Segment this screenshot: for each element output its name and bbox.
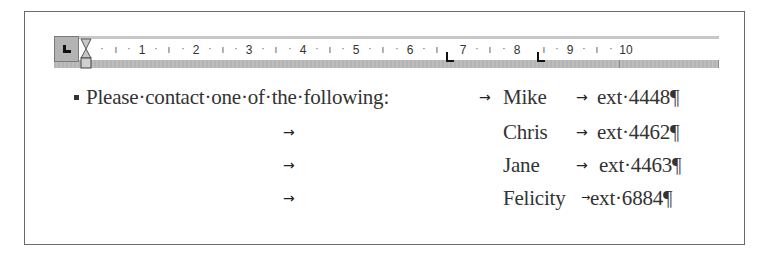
indent-marker-handle[interactable] xyxy=(80,36,92,70)
hanging-indent-icon xyxy=(81,49,91,58)
tab-arrow-icon: → xyxy=(283,120,295,144)
bullet-icon xyxy=(74,95,79,100)
contact-extension[interactable]: ext·4463¶ xyxy=(599,153,681,177)
ruler-label-10: 10 xyxy=(619,43,632,57)
contact-extension[interactable]: ext·4448¶ xyxy=(597,85,679,109)
ruler-label-2: 2 xyxy=(193,43,200,57)
ruler-label-3: 3 xyxy=(246,43,253,57)
ruler-label-6: 6 xyxy=(407,43,414,57)
tab-arrow-icon: → xyxy=(576,153,588,177)
tab-arrow-icon: → xyxy=(479,85,491,109)
ruler-labels: · ı · 1 · ı · 2 · ı · 3 · ı · 4 · ı · 5 … xyxy=(94,39,719,60)
contact-name[interactable]: Chris xyxy=(503,120,548,144)
contact-name[interactable]: Mike xyxy=(503,85,547,109)
paragraph-mark-icon: ¶ xyxy=(672,153,681,177)
ruler-label-7: 7 xyxy=(460,43,467,57)
ruler-label-1: 1 xyxy=(139,43,146,57)
tab-arrow-icon: → xyxy=(576,85,588,109)
ruler-label-9: 9 xyxy=(567,43,574,57)
horizontal-ruler[interactable]: · ı · 1 · ı · 2 · ı · 3 · ı · 4 · ı · 5 … xyxy=(54,36,719,72)
tab-selector-button[interactable] xyxy=(54,36,79,62)
tab-arrow-icon: → xyxy=(576,120,588,144)
line-1-lead-text[interactable]: Please·contact·one·of·the·following: xyxy=(86,85,389,109)
ruler-bottom-band xyxy=(54,60,719,68)
left-tab-icon xyxy=(63,45,71,53)
tab-arrow-icon: → xyxy=(283,186,295,210)
ruler-band-mark xyxy=(619,60,620,68)
contact-extension[interactable]: ext·6884¶ xyxy=(590,186,672,210)
paragraph-mark-icon: ¶ xyxy=(663,186,672,210)
left-tab-stop-icon[interactable] xyxy=(537,52,545,62)
contact-extension[interactable]: ext·4462¶ xyxy=(597,120,679,144)
ruler-band-mark xyxy=(718,60,719,68)
first-line-indent-icon xyxy=(81,39,91,49)
ruler-label-4: 4 xyxy=(300,43,307,57)
left-tab-stop-icon[interactable] xyxy=(446,52,454,62)
ruler-label-5: 5 xyxy=(353,43,360,57)
paragraph-mark-icon: ¶ xyxy=(670,85,679,109)
ruler-label-8: 8 xyxy=(514,43,521,57)
paragraph-mark-icon: ¶ xyxy=(670,120,679,144)
left-indent-icon xyxy=(81,58,91,68)
contact-name[interactable]: Jane xyxy=(503,153,540,177)
tab-arrow-icon: → xyxy=(581,186,590,210)
contact-name[interactable]: Felicity xyxy=(503,186,566,210)
tab-arrow-icon: → xyxy=(283,153,295,177)
